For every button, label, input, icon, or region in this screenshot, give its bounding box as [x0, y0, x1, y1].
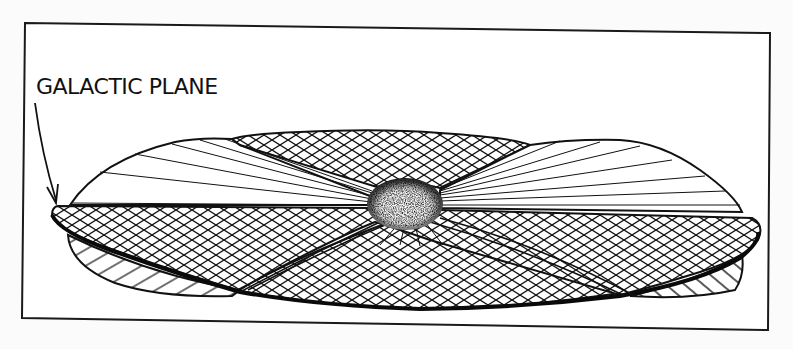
- galactic-bulge: [367, 178, 443, 230]
- galactic-plane-diagram: GALACTIC PLANE: [0, 0, 793, 349]
- galactic-plane-label: GALACTIC PLANE: [36, 74, 218, 99]
